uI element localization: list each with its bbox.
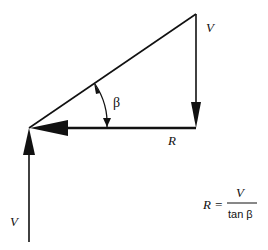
label-v-top: V	[206, 20, 216, 35]
v-arrowhead-up	[23, 128, 35, 155]
formula-numerator: V	[236, 185, 246, 200]
resultant-line	[29, 14, 196, 128]
angle-arrowhead-bottom	[103, 118, 111, 127]
v-arrowhead-down	[191, 102, 201, 128]
vector-diagram: V β R V R = V tan β	[0, 0, 268, 250]
formula: R = V tan β	[202, 185, 257, 220]
formula-denominator: tan β	[228, 208, 253, 220]
label-r: R	[167, 133, 176, 148]
label-v-bottom: V	[10, 214, 20, 229]
r-arrowhead-left	[30, 120, 68, 136]
label-beta: β	[113, 95, 120, 110]
angle-arrowhead-top	[94, 83, 100, 94]
formula-lhs: R =	[202, 197, 223, 212]
